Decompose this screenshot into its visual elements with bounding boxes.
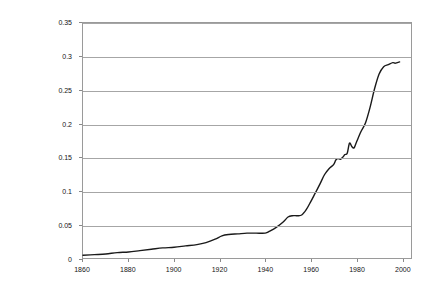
y-axis-tick-label: 0.05	[2, 222, 72, 229]
y-axis-tick-mark	[79, 191, 82, 192]
x-axis-tick-label: 1920	[212, 266, 228, 273]
y-axis-tick-label: 0	[2, 256, 72, 263]
x-axis-tick-mark	[265, 259, 266, 262]
y-axis-tick-label: 0.1	[2, 188, 72, 195]
y-axis-labels: 00.050.10.150.20.250.30.35	[0, 0, 78, 288]
x-axis-tick-mark	[220, 259, 221, 262]
y-axis-tick-mark	[79, 90, 82, 91]
gridline-horizontal	[83, 57, 411, 58]
gridline-horizontal	[83, 23, 411, 24]
plot-area	[82, 22, 412, 259]
chart-container: 00.050.10.150.20.250.30.35 1860188019001…	[0, 0, 426, 288]
x-axis-tick-label: 1980	[349, 266, 365, 273]
y-axis-tick-label: 0.15	[2, 154, 72, 161]
x-axis-tick-label: 1960	[303, 266, 319, 273]
gridline-horizontal	[83, 192, 411, 193]
y-axis-tick-label: 0.3	[2, 52, 72, 59]
x-axis-tick-mark	[82, 259, 83, 262]
x-axis-tick-mark	[128, 259, 129, 262]
x-axis-tick-mark	[403, 259, 404, 262]
y-axis-tick-mark	[79, 124, 82, 125]
x-axis-tick-label: 2000	[395, 266, 411, 273]
y-axis-tick-label: 0.35	[2, 19, 72, 26]
x-axis-tick-mark	[311, 259, 312, 262]
gridline-horizontal	[83, 226, 411, 227]
y-axis-tick-mark	[79, 22, 82, 23]
x-axis-tick-label: 1860	[74, 266, 90, 273]
y-axis-tick-label: 0.25	[2, 86, 72, 93]
x-axis-tick-mark	[357, 259, 358, 262]
gridline-horizontal	[83, 158, 411, 159]
gridline-horizontal	[83, 91, 411, 92]
x-axis-tick-label: 1940	[258, 266, 274, 273]
x-axis-tick-mark	[174, 259, 175, 262]
y-axis-tick-mark	[79, 225, 82, 226]
gridline-horizontal	[83, 125, 411, 126]
y-axis-tick-mark	[79, 157, 82, 158]
y-axis-tick-label: 0.2	[2, 120, 72, 127]
series-line-svg	[83, 23, 411, 258]
x-axis-tick-label: 1880	[120, 266, 136, 273]
x-axis-tick-label: 1900	[166, 266, 182, 273]
y-axis-tick-mark	[79, 56, 82, 57]
